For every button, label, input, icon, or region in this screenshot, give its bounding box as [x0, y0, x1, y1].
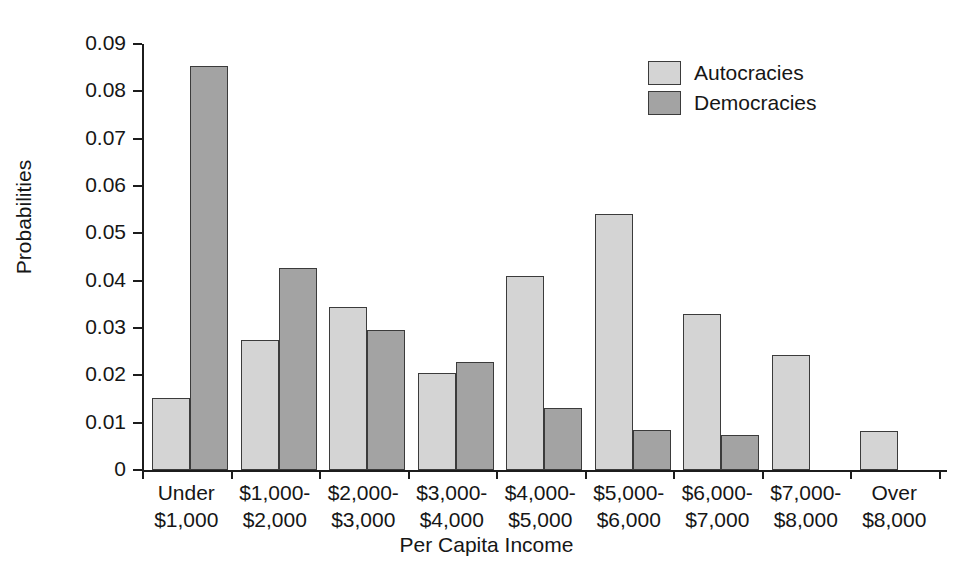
x-axis-label-line: $6,000- — [673, 479, 762, 506]
x-axis-label: $2,000-$3,000 — [319, 479, 408, 533]
x-axis-label-line: Over — [850, 479, 939, 506]
y-tick-label: 0.08 — [85, 78, 126, 102]
legend-item-autocracies[interactable]: Autocracies — [648, 58, 817, 88]
bar-democracies — [367, 330, 405, 470]
y-tick-label: 0 — [114, 457, 126, 481]
bar-autocracies — [683, 314, 721, 470]
bar-democracies — [456, 362, 494, 470]
bar-chart: Probabilities Per Capita Income 0.090.08… — [0, 0, 973, 583]
y-tick-mark — [133, 90, 142, 92]
bar-autocracies — [241, 340, 279, 470]
bar-autocracies — [152, 398, 190, 470]
legend-label: Autocracies — [694, 61, 804, 85]
x-axis-label-line: $4,000 — [408, 506, 497, 533]
x-axis-label-line: $1,000- — [231, 479, 320, 506]
x-tick-mark — [585, 470, 587, 479]
y-tick-mark — [133, 422, 142, 424]
bar-democracies — [544, 408, 582, 470]
bar-autocracies — [506, 276, 544, 470]
x-axis-label: $4,000-$5,000 — [496, 479, 585, 533]
x-axis-label: $5,000-$6,000 — [585, 479, 674, 533]
bar-autocracies — [595, 214, 633, 470]
y-tick-label: 0.04 — [85, 268, 126, 292]
y-tick-mark — [133, 280, 142, 282]
x-axis-line — [142, 470, 947, 472]
y-tick-mark — [133, 469, 142, 471]
y-tick-mark — [133, 327, 142, 329]
bar-autocracies — [860, 431, 898, 470]
x-axis-label-line: $2,000 — [231, 506, 320, 533]
y-axis-title: Probabilities — [12, 107, 36, 327]
x-axis-title: Per Capita Income — [0, 533, 973, 557]
y-tick-label: 0.03 — [85, 315, 126, 339]
bar-autocracies — [772, 355, 810, 470]
x-axis-label: $6,000-$7,000 — [673, 479, 762, 533]
x-tick-mark — [319, 470, 321, 479]
x-tick-mark — [496, 470, 498, 479]
x-axis-label-line: $3,000 — [319, 506, 408, 533]
x-axis-label-line: $6,000 — [585, 506, 674, 533]
x-axis-label: $3,000-$4,000 — [408, 479, 497, 533]
legend-swatch-democracies — [648, 91, 681, 115]
y-tick-mark — [133, 374, 142, 376]
x-axis-label: $1,000-$2,000 — [231, 479, 320, 533]
x-tick-mark — [673, 470, 675, 479]
y-tick-label: 0.07 — [85, 126, 126, 150]
bar-democracies — [190, 66, 228, 470]
y-tick-label: 0.02 — [85, 362, 126, 386]
bar-democracies — [721, 435, 759, 470]
x-axis-label-line: $1,000 — [142, 506, 231, 533]
x-axis-label: Over$8,000 — [850, 479, 939, 533]
y-tick-label: 0.01 — [85, 410, 126, 434]
x-axis-label: Under$1,000 — [142, 479, 231, 533]
x-axis-label-line: $5,000 — [496, 506, 585, 533]
bar-autocracies — [418, 373, 456, 470]
x-tick-mark — [762, 470, 764, 479]
legend-label: Democracies — [694, 91, 817, 115]
x-tick-mark — [142, 470, 144, 479]
y-tick-label: 0.06 — [85, 173, 126, 197]
y-tick-label: 0.05 — [85, 220, 126, 244]
x-tick-mark — [408, 470, 410, 479]
x-axis-label-line: $4,000- — [496, 479, 585, 506]
x-tick-mark — [939, 470, 941, 479]
legend-item-democracies[interactable]: Democracies — [648, 88, 817, 118]
bar-autocracies — [329, 307, 367, 470]
plot-area — [142, 44, 942, 470]
x-axis-label-line: $8,000 — [762, 506, 851, 533]
x-axis-label-line: $3,000- — [408, 479, 497, 506]
x-axis-label-line: $2,000- — [319, 479, 408, 506]
x-tick-mark — [850, 470, 852, 479]
x-axis-label-line: $8,000 — [850, 506, 939, 533]
x-axis-label: $7,000-$8,000 — [762, 479, 851, 533]
bar-democracies — [633, 430, 671, 470]
x-axis-label-line: Under — [142, 479, 231, 506]
bar-democracies — [279, 268, 317, 470]
y-tick-mark — [133, 185, 142, 187]
legend-swatch-autocracies — [648, 61, 681, 85]
y-tick-label: 0.09 — [85, 31, 126, 55]
chart-legend: AutocraciesDemocracies — [648, 58, 817, 118]
y-tick-mark — [133, 232, 142, 234]
y-tick-mark — [133, 138, 142, 140]
x-axis-label-line: $7,000- — [762, 479, 851, 506]
x-tick-mark — [231, 470, 233, 479]
x-axis-label-line: $5,000- — [585, 479, 674, 506]
y-tick-mark — [133, 43, 142, 45]
x-axis-label-line: $7,000 — [673, 506, 762, 533]
